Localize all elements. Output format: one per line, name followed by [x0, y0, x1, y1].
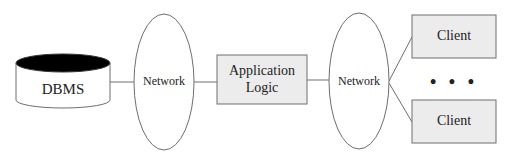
application-logic-label: Application Logic: [217, 55, 307, 104]
dbms-label: DBMS: [16, 72, 110, 108]
network-2-label: Network: [329, 72, 389, 92]
more-clients-ellipsis: • • •: [424, 70, 484, 94]
network-1-label: Network: [134, 72, 194, 92]
edge-network2-client1: [389, 37, 412, 81]
client-1-label: Client: [412, 15, 496, 58]
edge-network2-client2: [389, 83, 412, 122]
architecture-diagram: DBMS Network Application Logic Network C…: [0, 0, 508, 162]
client-2-label: Client: [412, 100, 496, 143]
